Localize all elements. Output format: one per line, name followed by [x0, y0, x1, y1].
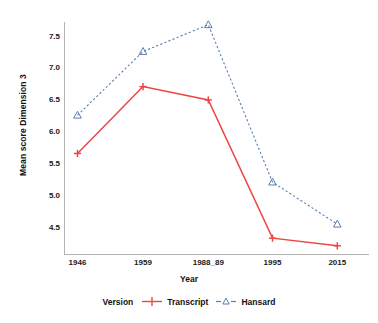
x-tick-label: 2015 [328, 258, 346, 267]
x-tick-label: 1995 [264, 258, 282, 267]
chart-container: Mean score Dimension 3 4.55.05.56.06.57.… [0, 0, 378, 323]
series-line [78, 87, 338, 246]
series-transcript [74, 83, 341, 249]
legend-entry-transcript[interactable]: Transcript [141, 296, 208, 307]
x-tick-label: 1988_89 [193, 258, 224, 267]
x-tick-label: 1946 [69, 258, 87, 267]
legend-label-transcript: Transcript [167, 297, 208, 307]
legend-label-hansard: Hansard [241, 297, 275, 307]
triangle-marker-icon [215, 296, 237, 307]
legend-entry-hansard[interactable]: Hansard [215, 296, 275, 307]
x-axis-tick-labels: 194619591988_8919952015 [0, 258, 378, 274]
chart-legend: Version Transcript Hansard [0, 296, 378, 307]
series-hansard [74, 21, 341, 227]
data-point-marker [334, 220, 342, 227]
x-axis-title: Year [0, 274, 378, 284]
series-line [78, 25, 338, 224]
legend-title: Version [103, 297, 134, 307]
plus-marker-icon [141, 296, 163, 307]
x-tick-label: 1959 [134, 258, 152, 267]
data-point-marker [205, 21, 213, 28]
